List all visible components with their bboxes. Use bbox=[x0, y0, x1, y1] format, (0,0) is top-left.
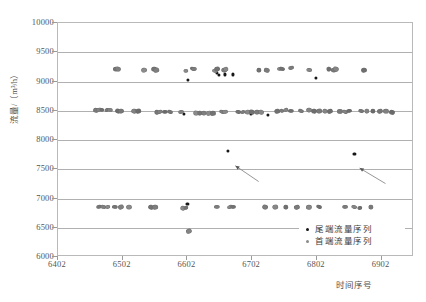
y-tick-mark bbox=[52, 139, 57, 140]
x-tick-mark bbox=[186, 256, 187, 260]
x-tick-mark bbox=[251, 256, 252, 260]
legend-item: 首端流量序列 bbox=[303, 235, 401, 247]
y-tick-mark bbox=[52, 198, 57, 199]
x-tick-label: 6402 bbox=[48, 260, 66, 269]
y-tick-mark bbox=[52, 168, 57, 169]
x-tick-label: 6502 bbox=[113, 260, 131, 269]
legend-label: 首端流量序列 bbox=[315, 236, 373, 246]
arrow-to-outlier-2 bbox=[360, 168, 386, 184]
y-tick-label: 10000 bbox=[32, 18, 54, 27]
y-tick-mark bbox=[52, 51, 57, 52]
x-tick-mark bbox=[316, 256, 317, 260]
x-tick-label: 6902 bbox=[372, 260, 390, 269]
x-tick-label: 6602 bbox=[178, 260, 196, 269]
arrow-to-outlier-1-head-icon bbox=[235, 166, 239, 170]
x-tick-mark bbox=[57, 256, 58, 260]
arrow-to-outlier-1 bbox=[235, 166, 258, 182]
y-tick-mark bbox=[52, 22, 57, 23]
legend-marker-icon bbox=[306, 228, 309, 231]
x-tick-mark bbox=[122, 256, 123, 260]
y-axis-title: 流量/（m³/h） bbox=[9, 47, 19, 147]
y-tick-mark bbox=[52, 227, 57, 228]
legend-label: 尾端流量序列 bbox=[315, 224, 373, 234]
chart-legend: 尾端流量序列 首端流量序列 bbox=[299, 221, 405, 250]
scatter-chart: 6000650070007500800085009000950010000 64… bbox=[0, 0, 426, 302]
x-axis-title: 时间序号 bbox=[336, 281, 372, 290]
x-tick-mark bbox=[381, 256, 382, 260]
legend-item: 尾端流量序列 bbox=[303, 223, 401, 235]
legend-marker-icon bbox=[306, 240, 309, 243]
x-tick-label: 6802 bbox=[307, 260, 325, 269]
x-tick-label: 6702 bbox=[242, 260, 260, 269]
y-tick-mark bbox=[52, 110, 57, 111]
y-tick-mark bbox=[52, 81, 57, 82]
